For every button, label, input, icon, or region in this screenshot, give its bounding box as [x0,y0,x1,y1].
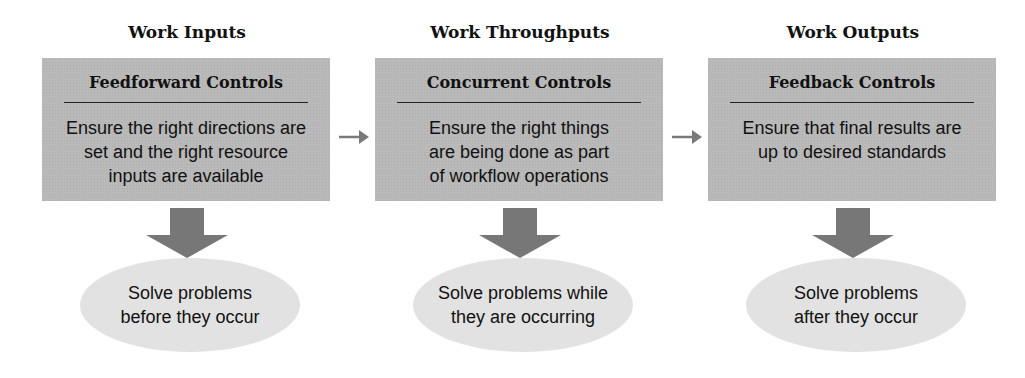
down-arrow-icon [475,208,565,258]
box-title: Feedforward Controls [42,73,330,92]
outcome-ellipse: Solve problems after they occur [746,258,966,352]
right-arrow-icon [337,128,371,146]
right-arrow-icon [670,128,704,146]
stage-work-throughputs: Work Throughputs Concurrent Controls Ens… [375,0,665,378]
control-box-concurrent: Concurrent Controls Ensure the right thi… [375,58,663,201]
box-description: Ensure the right things are being done a… [381,116,657,188]
down-arrow-icon [142,208,232,258]
title-divider [397,102,641,103]
outcome-ellipse: Solve problems while they are occurring [413,258,633,352]
down-arrow-icon [808,208,898,258]
stage-heading: Work Outputs [708,22,998,42]
control-box-feedforward: Feedforward Controls Ensure the right di… [42,58,330,201]
outcome-text: Solve problems after they occur [794,281,918,329]
stage-work-outputs: Work Outputs Feedback Controls Ensure th… [708,0,998,378]
box-description: Ensure the right directions are set and … [48,116,324,188]
outcome-text: Solve problems while they are occurring [438,281,608,329]
box-title: Feedback Controls [708,73,996,92]
box-title: Concurrent Controls [375,73,663,92]
stage-work-inputs: Work Inputs Feedforward Controls Ensure … [42,0,332,378]
title-divider [64,102,308,103]
outcome-text: Solve problems before they occur [120,281,259,329]
title-divider [730,102,974,103]
outcome-ellipse: Solve problems before they occur [80,258,300,352]
box-description: Ensure that final results are up to desi… [714,116,990,164]
stage-heading: Work Throughputs [375,22,665,42]
control-box-feedback: Feedback Controls Ensure that final resu… [708,58,996,201]
stage-heading: Work Inputs [42,22,332,42]
